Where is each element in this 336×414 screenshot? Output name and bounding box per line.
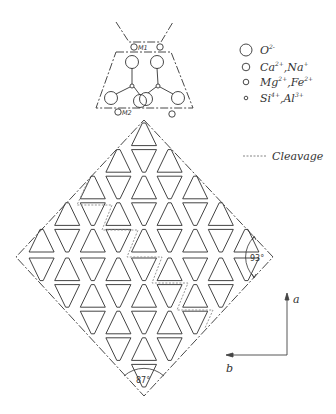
chain-triangle [132, 123, 157, 146]
angle-87-mark [124, 368, 164, 376]
m2-label: M2 [122, 109, 132, 117]
chain-triangle [208, 203, 233, 226]
pyroxene-diagram: M1 M2 O2- Ca2+,Na+ Mg2+,Fe2+ Si4+,Al3+ C… [0, 0, 336, 414]
chain-triangle [80, 203, 105, 226]
chain-triangle [132, 176, 157, 199]
oxygen-circle-icon [240, 44, 252, 56]
m1-site-icon [131, 44, 137, 50]
chain-triangle [183, 285, 208, 308]
chain-triangle [106, 229, 131, 252]
ca-na-circle-icon [242, 63, 250, 71]
chain-triangle [132, 285, 157, 308]
legend-oxygen: O2- [260, 43, 275, 57]
chain-triangle [208, 229, 233, 252]
chain-triangle [157, 311, 182, 334]
chain-triangle [157, 258, 182, 281]
legend: O2- Ca2+,Na+ Mg2+,Fe2+ Si4+,Al3+ Cleavag… [240, 43, 324, 163]
chain-triangle [157, 285, 182, 308]
chain-triangle [29, 258, 54, 281]
legend-mg-fe: Mg2+,Fe2+ [259, 75, 313, 89]
chain-triangle [132, 311, 157, 334]
chain-triangle [157, 338, 182, 361]
chain-triangle [183, 311, 208, 334]
chain-triangle [29, 229, 54, 252]
chain-triangle [80, 258, 105, 281]
chain-triangle [183, 258, 208, 281]
chain-triangle [106, 176, 131, 199]
chain-triangle [183, 176, 208, 199]
axis-a-label: a [293, 293, 300, 306]
chain-triangle [157, 150, 182, 173]
chain-triangle [183, 203, 208, 226]
chain-triangle [132, 150, 157, 173]
unit-cell-detail [96, 22, 193, 117]
chain-triangle [106, 285, 131, 308]
legend-cleavage: Cleavage [272, 150, 324, 163]
chain-triangle [55, 229, 80, 252]
chain-lattice [29, 123, 259, 387]
chain-triangle [106, 150, 131, 173]
axis-b-label: b [226, 362, 233, 375]
chain-triangle [106, 338, 131, 361]
chain-triangle [80, 229, 105, 252]
chain-triangle [208, 258, 233, 281]
si-al-circle-icon [244, 96, 248, 100]
chain-triangle [106, 311, 131, 334]
chain-triangle [183, 229, 208, 252]
cleavage-path [77, 183, 213, 328]
chain-triangle [157, 203, 182, 226]
m1-label: M1 [138, 44, 148, 52]
chain-triangle [55, 203, 80, 226]
chain-triangle [132, 338, 157, 361]
legend-ca-na: Ca2+,Na+ [260, 60, 309, 74]
chain-triangle [132, 258, 157, 281]
mg-fe-circle-icon [243, 79, 249, 85]
chain-triangle [157, 176, 182, 199]
chain-triangle [106, 258, 131, 281]
legend-si-al: Si4+,Al3+ [260, 91, 304, 105]
chain-triangle [106, 203, 131, 226]
angle-87-label: 87° [136, 376, 150, 385]
chain-triangle [157, 229, 182, 252]
chain-triangle [55, 285, 80, 308]
chain-triangle [132, 229, 157, 252]
chain-triangle [80, 176, 105, 199]
chain-triangle [80, 285, 105, 308]
chain-triangle [55, 258, 80, 281]
chain-triangle [132, 203, 157, 226]
axes [226, 293, 289, 357]
m2-site-icon [115, 109, 121, 115]
angle-93-label: 93° [250, 254, 264, 263]
